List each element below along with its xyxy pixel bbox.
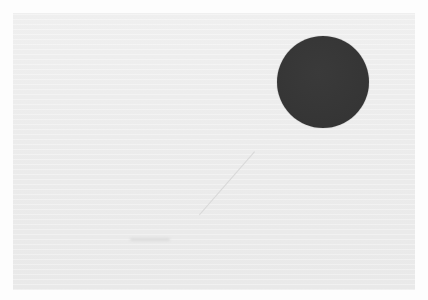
faint-smudge-mark: [130, 238, 170, 241]
image-canvas: [0, 0, 428, 300]
dark-circle: [277, 36, 369, 128]
